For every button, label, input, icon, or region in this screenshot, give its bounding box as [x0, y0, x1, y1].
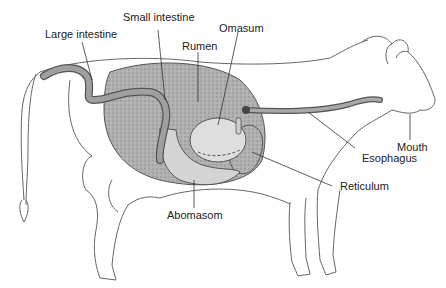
label-small-intestine: Small intestine — [123, 11, 195, 23]
label-reticulum: Reticulum — [340, 180, 389, 192]
label-large-intestine: Large intestine — [45, 28, 117, 40]
cow-digestive-diagram: Large intestine Small intestine Rumen Om… — [0, 0, 446, 288]
label-abomasom: Abomasom — [167, 209, 223, 221]
label-esophagus: Esophagus — [362, 152, 417, 164]
label-rumen: Rumen — [182, 40, 217, 52]
label-omasum: Omasum — [219, 22, 264, 34]
cow-illustration — [0, 0, 446, 288]
